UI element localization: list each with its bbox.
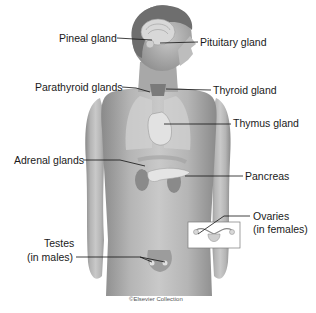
label-ovaries-note: (in females) bbox=[253, 223, 308, 235]
head bbox=[132, 5, 196, 71]
kidney-left bbox=[135, 169, 149, 191]
label-thyroid-gland: Thyroid gland bbox=[213, 84, 277, 96]
ovaries-inset bbox=[188, 222, 240, 248]
label-adrenal-glands: Adrenal glands bbox=[14, 154, 84, 166]
label-testes-note: (in males) bbox=[27, 251, 73, 263]
copyright-credit: ©Elsevier Collection bbox=[129, 296, 183, 302]
label-pineal-gland: Pineal gland bbox=[59, 32, 117, 44]
label-pituitary-gland: Pituitary gland bbox=[200, 36, 267, 48]
label-thymus-gland: Thymus gland bbox=[233, 117, 299, 129]
label-parathyroid-glands: Parathyroid glands bbox=[35, 81, 123, 93]
thyroid bbox=[150, 84, 166, 96]
label-pancreas: Pancreas bbox=[245, 170, 289, 182]
label-ovaries: Ovaries bbox=[253, 210, 289, 222]
label-testes: Testes bbox=[44, 237, 74, 249]
